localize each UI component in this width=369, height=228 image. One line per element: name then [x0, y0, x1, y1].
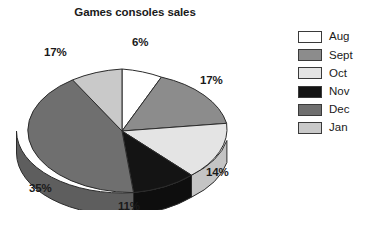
pie-label-nov: 11%: [118, 200, 140, 212]
legend-swatch-sept: [298, 49, 322, 61]
legend-item-nov: Nov: [298, 83, 368, 101]
legend-swatch-oct: [298, 67, 322, 79]
legend-swatch-nov: [298, 86, 322, 98]
legend-label-oct: Oct: [329, 68, 347, 80]
legend-label-sept: Sept: [329, 50, 353, 62]
legend-label-jan: Jan: [329, 122, 348, 134]
legend-swatch-aug: [298, 31, 322, 43]
pie-label-aug: 6%: [132, 36, 148, 48]
legend-item-oct: Oct: [298, 64, 368, 82]
legend-label-nov: Nov: [329, 86, 349, 98]
pie-chart-figure: Games consoles sales: [0, 0, 369, 228]
legend-item-jan: Jan: [298, 119, 368, 137]
pie-label-dec: 35%: [29, 182, 51, 194]
legend-label-dec: Dec: [329, 104, 349, 116]
legend-swatch-dec: [298, 104, 322, 116]
legend-item-aug: Aug: [298, 28, 368, 46]
pie-label-jan: 17%: [44, 46, 66, 58]
legend-item-sept: Sept: [298, 46, 368, 64]
legend-swatch-jan: [298, 122, 322, 134]
legend-label-aug: Aug: [329, 31, 349, 43]
pie-label-oct: 14%: [206, 166, 228, 178]
chart-title: Games consoles sales: [0, 6, 270, 18]
chart-legend: Aug Sept Oct Nov Dec Jan: [298, 28, 368, 137]
legend-item-dec: Dec: [298, 101, 368, 119]
pie-label-sept: 17%: [200, 74, 222, 86]
